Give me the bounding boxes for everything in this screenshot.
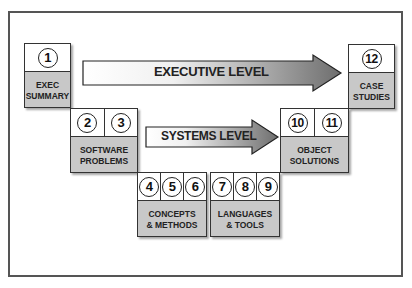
box-label: CASE STUDIES xyxy=(349,73,394,110)
box-case-studies: 12 CASE STUDIES xyxy=(348,44,395,109)
chapter-number: 11 xyxy=(322,113,342,133)
box-label: CONCEPTS & METHODS xyxy=(138,201,206,238)
chapter-number: 7 xyxy=(212,177,232,197)
box-concepts-methods: 4 5 6 CONCEPTS & METHODS xyxy=(137,172,207,237)
box-label: EXEC SUMMARY xyxy=(25,72,70,109)
box-software-problems: 2 3 SOFTWARE PROBLEMS xyxy=(70,108,138,173)
chapter-number: 3 xyxy=(111,113,131,133)
chapter-number: 2 xyxy=(77,113,97,133)
box-exec-summary: 1 EXEC SUMMARY xyxy=(24,43,71,108)
chapter-number: 4 xyxy=(139,177,159,197)
chapter-number: 1 xyxy=(38,48,58,68)
chapter-number: 6 xyxy=(185,177,205,197)
executive-level-label: EXECUTIVE LEVEL xyxy=(154,64,269,79)
chapter-number: 5 xyxy=(162,177,182,197)
chapter-number: 8 xyxy=(235,177,255,197)
box-object-solutions: 10 11 OBJECT SOLUTIONS xyxy=(280,108,349,173)
chapter-number: 10 xyxy=(288,113,308,133)
box-label: LANGUAGES & TOOLS xyxy=(211,201,279,238)
chapter-number: 9 xyxy=(258,177,278,197)
box-label: OBJECT SOLUTIONS xyxy=(281,137,348,174)
chapter-number: 12 xyxy=(362,49,382,69)
systems-level-label: SYSTEMS LEVEL xyxy=(161,129,256,143)
box-languages-tools: 7 8 9 LANGUAGES & TOOLS xyxy=(210,172,280,237)
box-label: SOFTWARE PROBLEMS xyxy=(71,137,137,174)
